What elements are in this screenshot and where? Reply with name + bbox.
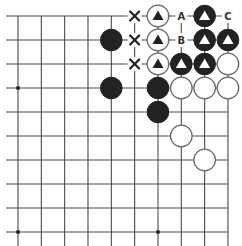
point-label-b: B: [177, 35, 185, 46]
star-point: [16, 230, 20, 234]
black-stone: [194, 53, 216, 75]
white-stone-body: [194, 77, 216, 99]
white-stone: [147, 53, 169, 75]
star-point: [156, 230, 160, 234]
black-stone: [101, 29, 123, 51]
black-stone: [147, 77, 169, 99]
white-stone-body: [194, 149, 216, 171]
grid-lines: [6, 16, 228, 246]
black-stone: [147, 101, 169, 123]
black-stone-body: [101, 29, 123, 51]
black-stone: [194, 5, 216, 27]
white-stone: [171, 125, 193, 147]
white-stone-body: [171, 77, 193, 99]
go-board: ABC: [0, 0, 242, 246]
white-stone: [217, 77, 239, 99]
white-stone: [217, 53, 239, 75]
black-stone: [217, 29, 239, 51]
white-stone-body: [217, 53, 239, 75]
black-stone-body: [147, 77, 169, 99]
black-stone-body: [101, 77, 123, 99]
black-stone: [194, 29, 216, 51]
point-label-c: C: [224, 11, 231, 22]
black-stone-body: [147, 101, 169, 123]
star-point: [16, 86, 20, 90]
black-stone: [101, 77, 123, 99]
point-label-a: A: [177, 11, 185, 22]
white-stone: [171, 77, 193, 99]
white-stone: [147, 5, 169, 27]
white-stone: [194, 149, 216, 171]
white-stone-body: [171, 125, 193, 147]
white-stone-body: [217, 77, 239, 99]
white-stone: [147, 29, 169, 51]
black-stone: [171, 53, 193, 75]
white-stone: [194, 77, 216, 99]
